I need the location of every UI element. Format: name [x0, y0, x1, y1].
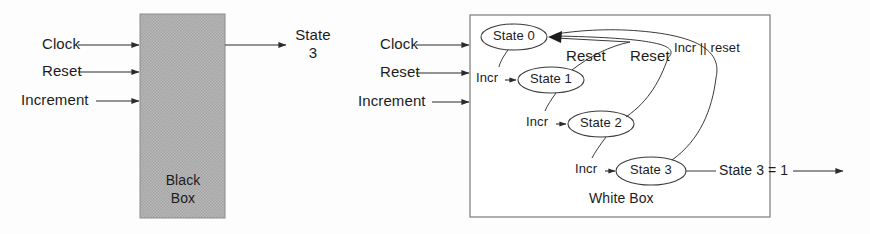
black-box-output-label-line1: State: [290, 27, 336, 43]
white-box-input-label-clock: Clock: [380, 36, 418, 52]
black-box-input-label-increment: Increment: [21, 92, 89, 108]
white-box-input-label-increment: Increment: [358, 93, 426, 109]
state-0-label: State 0: [482, 29, 546, 43]
transition-label-incr-1-2: Incr: [526, 115, 548, 129]
white-box-output-label: State 3 = 1: [719, 163, 788, 178]
figure-canvas: Clock Reset Increment State 3 Black Box …: [0, 0, 870, 234]
black-box-caption-line1: Black: [140, 173, 226, 188]
transition-label-reset-1-0: Reset: [566, 48, 606, 64]
black-box-input-label-reset: Reset: [42, 63, 82, 79]
state-2-label: State 2: [569, 116, 633, 130]
transition-label-incr-0-1: Incr: [476, 71, 498, 85]
black-box-caption-line2: Box: [140, 191, 226, 206]
diagram-vector-layer: [0, 0, 870, 234]
black-box-output-label-line2: 3: [290, 45, 336, 61]
white-box-input-label-reset: Reset: [380, 64, 420, 80]
transition-label-incr-2-3: Incr: [575, 162, 597, 176]
transition-label-incr-or-reset-3-0: Incr || reset: [674, 41, 740, 55]
transition-label-reset-2-0: Reset: [630, 48, 670, 64]
white-box-caption: White Box: [589, 191, 654, 206]
state-3-label: State 3: [619, 163, 683, 177]
state-1-label: State 1: [519, 72, 583, 86]
black-box-input-label-clock: Clock: [42, 36, 80, 52]
